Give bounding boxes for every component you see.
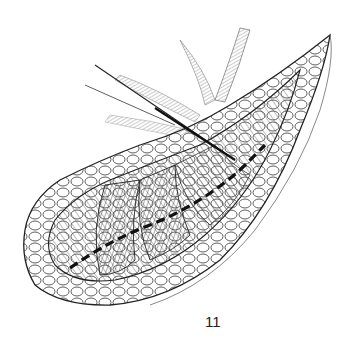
figure-number: 11 (205, 313, 221, 330)
surgical-illustration (0, 0, 352, 364)
